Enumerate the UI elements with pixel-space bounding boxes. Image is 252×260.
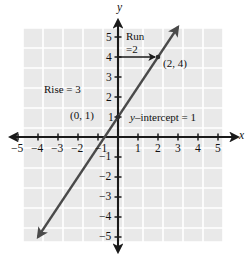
graph-figure: y x −5 −4 −3 −2 −1 1 2 3 4 5 5 4 3 2 1 −… xyxy=(0,0,252,260)
x-tick-label-4: 4 xyxy=(195,143,201,154)
point-label-2-4: (2, 4) xyxy=(163,58,187,69)
x-tick-label-1: 1 xyxy=(135,143,141,154)
y-tick-label-1: 1 xyxy=(108,112,114,123)
x-tick-label--3: −3 xyxy=(51,143,63,154)
x-tick-label-3: 3 xyxy=(175,143,181,154)
x-tick-label-2: 2 xyxy=(155,143,161,154)
x-tick-label--5: −5 xyxy=(11,143,23,154)
y-tick-label--5: −5 xyxy=(99,231,111,242)
point-marker-2-4 xyxy=(156,55,161,60)
run-annotation-line2: =2 xyxy=(126,43,138,56)
y-intercept-annotation: y–intercept = 1 xyxy=(130,112,196,123)
x-tick-label--4: −4 xyxy=(31,143,43,154)
y-tick-label-3: 3 xyxy=(106,72,112,83)
point-marker-0-1 xyxy=(116,115,121,120)
point-label-0-1: (0, 1) xyxy=(70,110,94,121)
rise-annotation: Rise = 3 xyxy=(44,84,81,95)
x-axis-label: x xyxy=(239,130,244,141)
y-tick-label--4: −4 xyxy=(99,211,111,222)
y-intercept-text: –intercept = 1 xyxy=(135,111,196,123)
y-tick-label--3: −3 xyxy=(99,191,111,202)
run-annotation-line1: Run xyxy=(126,30,144,43)
y-tick-label--1: −1 xyxy=(99,151,111,162)
y-axis-label: y xyxy=(117,2,122,13)
y-tick-label--2: −2 xyxy=(99,171,111,182)
y-tick-label-5: 5 xyxy=(106,32,112,43)
y-tick-label-4: 4 xyxy=(106,52,112,63)
grid-background xyxy=(23,28,223,242)
x-tick-label--2: −2 xyxy=(71,143,83,154)
x-tick-label-5: 5 xyxy=(215,143,221,154)
y-tick-label-2: 2 xyxy=(106,92,112,103)
